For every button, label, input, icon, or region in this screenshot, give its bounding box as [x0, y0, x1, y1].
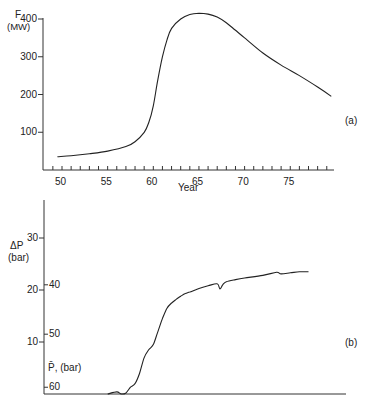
x-tick-label: 55 — [101, 176, 112, 187]
y-tick-label: 10 — [27, 336, 38, 347]
x-tick-label: 60 — [146, 176, 157, 187]
chart-a-x-ticks — [53, 166, 327, 170]
x-tick-label: 50 — [55, 176, 66, 187]
chart-b-ylabel-unit: (bar) — [8, 252, 29, 263]
chart-a-xlabel: Year — [178, 182, 198, 193]
x-tick-label: 70 — [238, 176, 249, 187]
chart-b-y-ticks — [39, 238, 44, 342]
y-tick-label: 300 — [20, 51, 37, 62]
chart-b-secondary-axis-label: P̄, (bar) — [48, 362, 81, 373]
chart-a-line — [57, 13, 331, 157]
y-tick-label: 100 — [20, 126, 37, 137]
chart-b-axes — [39, 200, 346, 394]
chart-a-axes — [38, 18, 334, 170]
x-tick-label: 75 — [283, 176, 294, 187]
chart-a-panel-label: (a) — [345, 115, 357, 126]
secondary-tick-label: 60 — [49, 381, 60, 392]
chart-b-panel-label: (b) — [345, 337, 357, 348]
chart-a-ylabel-symbol: F — [15, 9, 21, 20]
y-tick-label: 200 — [20, 89, 37, 100]
chart-a-y-ticks — [38, 19, 43, 132]
secondary-tick-label: 40 — [49, 279, 60, 290]
chart-a-ylabel-unit: (MW) — [7, 21, 30, 32]
chart-b-ylabel-symbol: ΔP — [10, 240, 23, 251]
y-tick-label: 30 — [27, 232, 38, 243]
secondary-tick-label: 50 — [49, 328, 60, 339]
chart-b-line — [108, 272, 309, 394]
y-tick-label: 20 — [27, 284, 38, 295]
